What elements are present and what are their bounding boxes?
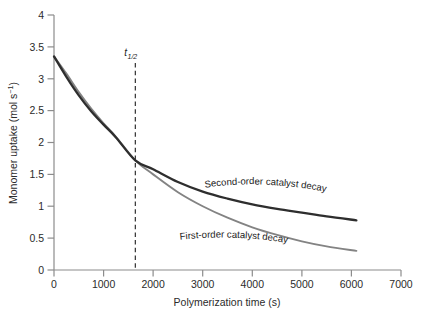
data-series-group <box>54 56 356 250</box>
series-label-second-order-catalyst-decay: Second-order catalyst decay <box>204 175 328 193</box>
x-tick-label-6000: 6000 <box>340 278 364 290</box>
half-life-marker: t 1/2 <box>124 47 137 270</box>
x-tick-label-2000: 2000 <box>141 278 165 290</box>
y-axis-tick-labels: 0 0.5 1 1.5 2 2.5 3 3.5 4 <box>29 9 44 276</box>
y-axis-title: Monomer uptake (mol s−1) <box>6 82 19 204</box>
series-label-second-order-text: Second-order catalyst decay <box>204 175 328 193</box>
y-axis-title-base: Monomer uptake (mol s <box>7 94 19 204</box>
y-tick-label-3-5: 3.5 <box>29 41 44 53</box>
y-tick-label-3: 3 <box>38 73 44 85</box>
x-tick-label-7000: 7000 <box>389 278 413 290</box>
chart-figure: 0 0.5 1 1.5 2 2.5 3 3.5 4 0 1000 2000 30 <box>0 0 421 315</box>
x-axis-tick-labels: 0 1000 2000 3000 4000 5000 6000 7000 <box>51 278 413 290</box>
x-tick-label-0: 0 <box>51 278 57 290</box>
x-axis-title: Polymerization time (s) <box>174 296 281 308</box>
x-axis-ticks <box>54 270 401 277</box>
y-axis-title-superscript: −1 <box>6 86 15 94</box>
y-tick-label-1: 1 <box>38 200 44 212</box>
x-tick-label-1000: 1000 <box>92 278 116 290</box>
y-tick-label-4: 4 <box>38 9 44 21</box>
y-tick-label-1-5: 1.5 <box>29 168 44 180</box>
y-tick-label-2-5: 2.5 <box>29 104 44 116</box>
y-tick-label-2: 2 <box>38 136 44 148</box>
x-tick-label-5000: 5000 <box>290 278 314 290</box>
y-tick-label-0-5: 0.5 <box>29 232 44 244</box>
series-line-second-order-catalyst-decay <box>54 56 356 220</box>
y-axis-title-tail: ) <box>7 82 19 86</box>
series-label-first-order-text: First-order catalyst decay <box>179 229 289 245</box>
series-label-first-order-catalyst-decay: First-order catalyst decay <box>179 229 289 245</box>
series-line-first-order-catalyst-decay <box>54 56 356 250</box>
x-tick-label-3000: 3000 <box>191 278 215 290</box>
x-tick-label-4000: 4000 <box>241 278 265 290</box>
chart-canvas: 0 0.5 1 1.5 2 2.5 3 3.5 4 0 1000 2000 30 <box>0 0 421 315</box>
y-axis-ticks <box>48 15 55 270</box>
y-tick-label-0: 0 <box>38 264 44 276</box>
half-life-label-subscript: 1/2 <box>128 53 138 60</box>
